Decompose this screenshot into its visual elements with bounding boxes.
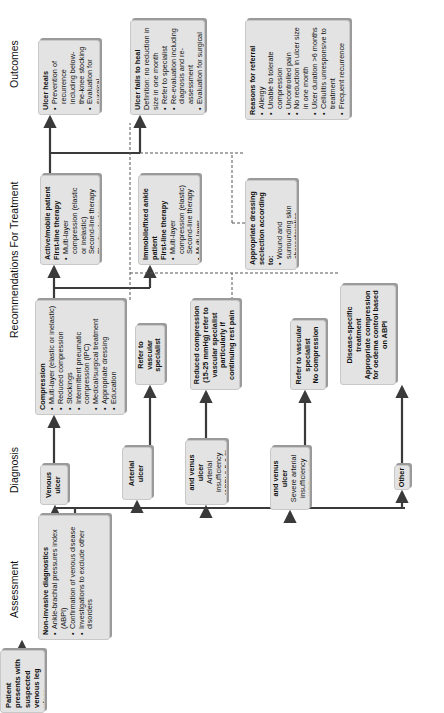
refer-no-compression-line1: Refer to vascular specialist [295, 325, 313, 385]
start-text: Patient presents with suspected venous l… [4, 659, 45, 708]
ulcer-heals-box: Ulcer heals Prevention of recurrence inc… [38, 40, 100, 115]
refer-no-compression-line2: No compression [312, 326, 321, 383]
ulcer-fails-item: Re-evaluation including diagnosis and re… [170, 25, 197, 110]
diagnosis-mixed-severe-title: Mixed arterial and venus ulcer [270, 452, 290, 505]
ulcer-fails-box: Ulcer fails to heal Definition: no reduc… [130, 20, 205, 115]
assessment-item: Investigations to exclude other disorder… [78, 520, 96, 635]
disease-specific-box: Disease-specific treatment Appropriate c… [340, 285, 396, 385]
diagnosis-mixed-moderate-text: Arterial insufficiency (ABPI 0.5-0.8) [206, 445, 227, 500]
immobile-patient-title: Immobile/fixed ankle patient [142, 180, 160, 260]
dressing-title: Appropriate dressing seclection accordin… [249, 185, 276, 265]
assessment-box: Non-invasive diagnostics Ankle-brachial … [38, 515, 110, 640]
ulcer-fails-definition: Definition: no reduction in size in one … [143, 25, 161, 110]
diagnosis-mixed-moderate-title: Mixed arterial and venus ulcer [185, 445, 206, 500]
venous-leg-ulcer-flowchart: Assessment Diagnosis Recommendations For… [0, 0, 444, 713]
header-recommendations: Recommendations For Treatment [8, 182, 20, 338]
referral-reason-item: Frequent recurrence [338, 25, 347, 115]
referral-reason-item: Unable to tolerate compression [267, 25, 285, 115]
diagnosis-mixed-severe-box: Mixed arterial and venus ulcer Severe ar… [270, 447, 310, 510]
diagnosis-venous-label: Venous ulcer [45, 470, 63, 500]
immobile-patient-box: Immobile/fixed ankle patient First-line … [138, 175, 200, 265]
immobile-second-line-item: Multi-layer compression (elastic) + IPG [195, 180, 200, 260]
refer-no-compression-box: Refer to vascular specialist No compress… [290, 320, 326, 390]
start-box: Patient presents with suspected venous l… [0, 650, 45, 713]
refer-vascular-arterial-box: Refer to vascular specialist [135, 325, 165, 385]
header-diagnosis: Diagnosis [8, 447, 20, 493]
header-assessment: Assessment [8, 561, 20, 618]
active-second-line-item: Elastic stockings [97, 180, 100, 260]
diagnosis-mixed-severe-text: Severe arterial insufficiency (ABPI <0.5… [290, 452, 310, 505]
active-patient-box: Active/mobile patient First-line therapy… [40, 175, 100, 265]
diagnosis-mixed-moderate-box: Mixed arterial and venus ulcer Arterial … [185, 440, 227, 505]
dressing-item: Wound and surrounding skin characteristi… [276, 185, 297, 265]
referral-reason-item: No reduction in ulcer size in one month [293, 25, 311, 115]
ulcer-fails-item: Evaluation for surgical correction or sk… [196, 25, 205, 110]
active-first-line-item: Multi-layer compression (elastic or inel… [62, 180, 89, 260]
disease-specific-line2: Appropriate compression for oedema contr… [364, 290, 391, 380]
referral-reasons-box: Reasons for referral Allergy Unable to t… [245, 20, 350, 120]
compression-item: Intermittent pneumatic compression (IPC) [75, 305, 93, 410]
diagnosis-arterial-label: Arterial ulcer [128, 452, 146, 495]
diagnosis-venous-box: Venous ulcer [40, 465, 68, 505]
refer-vascular-arterial-text: Refer to vascular specialist [137, 330, 164, 380]
compression-box: Compression Multi-layer (elastic or inel… [35, 300, 125, 415]
immobile-first-line-item: Multi-layer compression (elastic) [169, 180, 187, 260]
ulcer-heals-item: Evaluation for surgical correction [86, 45, 100, 110]
diagnosis-arterial-box: Arterial ulcer [122, 447, 152, 500]
header-outcomes: Outcomes [8, 40, 20, 88]
diagnosis-other-label: Other [398, 468, 407, 487]
assessment-item: Ankle-brachial pressures index (ABPI) [51, 520, 69, 635]
diagnosis-other-box: Other [394, 465, 410, 490]
dressing-box: Appropriate dressing seclection accordin… [245, 180, 297, 270]
compression-extra-item: Education [110, 305, 119, 410]
ulcer-heals-item: Prevention of recurrence including below… [51, 45, 87, 110]
disease-specific-line1: Disease-specific treatment [346, 290, 364, 380]
reduced-compression-text: Reduced compression (15-25 mmHg) refer t… [193, 305, 237, 385]
reduced-compression-box: Reduced compression (15-25 mmHg) refer t… [190, 300, 240, 390]
referral-reason-item: Cellulitis unresponsive to treatment [320, 25, 338, 115]
